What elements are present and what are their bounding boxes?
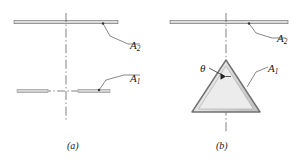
diagram-canvas [0,0,301,165]
label-a1-subfig-b: A1 [268,63,278,76]
label-a1-subfig-a: A1 [130,73,140,86]
caption-subfig-a: (a) [67,140,79,151]
caption-subfig-b: (b) [216,140,228,151]
subfig-b-plate-a2 [170,21,288,24]
figure-container: A2 A1 A2 A1 θ (a) (b) [0,0,301,165]
subfig-a-strip-left [17,89,48,92]
label-theta-angle: θ [200,63,205,74]
label-a2-subfig-a: A2 [130,40,140,53]
label-a2-subfig-b: A2 [277,33,287,46]
subfig-b-leader-a1 [247,67,268,87]
subfig-a-strip-right [78,89,110,92]
